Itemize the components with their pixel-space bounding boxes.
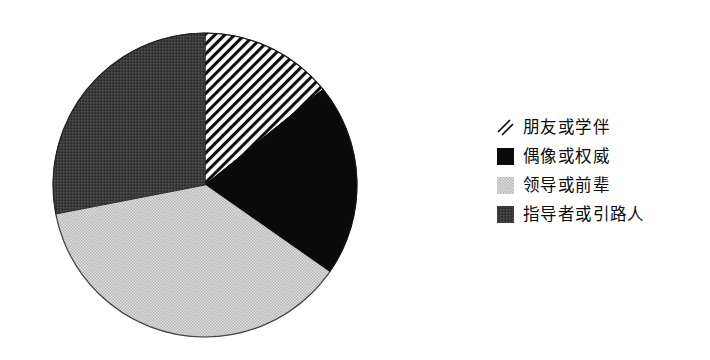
legend-item-mentor-or-guide[interactable]: 指导者或引路人 — [497, 200, 697, 229]
pie-chart-figure: 朋友或学伴 偶像或权威 领导或前辈 指导 — [0, 0, 710, 360]
legend-item-label: 指导者或引路人 — [523, 205, 645, 224]
dark-gray-swatch-icon — [497, 206, 514, 223]
hatched-swatch-icon — [497, 119, 514, 136]
pie-slice-mentor-or-guide[interactable] — [53, 33, 205, 214]
chart-legend: 朋友或学伴 偶像或权威 领导或前辈 指导 — [497, 113, 697, 229]
pie-slices — [53, 33, 357, 337]
legend-item-label: 领导或前辈 — [523, 176, 610, 195]
light-gray-swatch-icon — [497, 177, 514, 194]
legend-item-friend-or-study-mate[interactable]: 朋友或学伴 — [497, 113, 697, 142]
pie-chart-svg — [0, 0, 420, 360]
pie-chart-plot-area — [0, 0, 420, 360]
legend-item-label: 偶像或权威 — [523, 147, 610, 166]
legend-item-idol-or-authority[interactable]: 偶像或权威 — [497, 142, 697, 171]
legend-item-label: 朋友或学伴 — [523, 118, 610, 137]
legend-item-leader-or-senior[interactable]: 领导或前辈 — [497, 171, 697, 200]
black-swatch-icon — [497, 148, 514, 165]
